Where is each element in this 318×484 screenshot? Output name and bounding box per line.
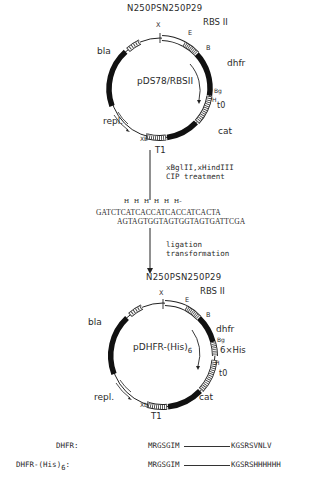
step1-enzymes: xBglII,xHindIII: [166, 163, 234, 172]
linker-bottom-strand: AGTAGTGGTAGTGGTAGTGATTCGA: [117, 217, 245, 226]
bottom-gene-repl: repl.: [94, 392, 114, 402]
top-site-bg: Bg: [214, 87, 222, 94]
bottom-site-xb: Xb: [140, 401, 148, 408]
seq-gap-line-dhfr-his6: [184, 465, 230, 466]
seq-label-dhfr-his6: DHFR-(His)6:: [16, 460, 70, 472]
bottom-site-b: B: [206, 311, 210, 319]
top-promoter-label: N250PSN250P29: [127, 3, 203, 13]
bottom-site-h: H: [215, 359, 220, 366]
bottom-site-bg: Bg: [217, 336, 225, 343]
top-plasmid-name: pDS78/RBSII: [137, 76, 193, 86]
bottom-plasmid-name: pDHFR-(His)6: [133, 342, 192, 355]
bottom-his-tag-label: 6×His: [220, 345, 246, 355]
bottom-site-e: E: [185, 296, 189, 304]
bottom-rbs-label: RBS II: [200, 286, 225, 296]
cat-gene: [167, 123, 196, 138]
top-gene-repl: repl.: [103, 116, 123, 126]
bottom-plasmid-name-sub: 6: [188, 347, 192, 355]
linker-top-strand: GATCTCATCACCATCACCATCACTA: [96, 208, 221, 217]
bla-gene: [109, 52, 126, 106]
bottom-gene-bla: bla: [88, 317, 102, 327]
top-terminator-t1: T1: [155, 145, 166, 155]
top-gene-bla: bla: [97, 46, 111, 56]
linker-his-row: H H H H H H-: [124, 197, 182, 205]
seq-label-dhfr-his6-text: DHFR-(His): [16, 460, 61, 469]
top-site-h: H: [212, 96, 217, 103]
bottom-gene-dhfr: dhfr: [216, 324, 234, 334]
bottom-plasmid-name-text: pDHFR-(His): [133, 342, 188, 352]
top-gene-cat: cat: [218, 126, 232, 136]
step1-treatment: CIP treatment: [166, 172, 225, 181]
seq-label-dhfr: DHFR:: [56, 441, 79, 450]
bottom-gene-cat: cat: [199, 392, 213, 402]
bottom-site-x: X: [159, 289, 163, 297]
seq-nterm-dhfr-his6: MRGSGIM: [148, 460, 180, 469]
top-terminator-t0: t0: [217, 101, 225, 110]
step2-ligation: ligation: [166, 240, 202, 249]
cat-gene: [168, 391, 200, 407]
top-gene-dhfr: dhfr: [227, 58, 245, 68]
bottom-terminator-t0: t0: [219, 369, 227, 378]
bottom-promoter-label: N250PSN250P29: [146, 272, 222, 282]
top-site-b: B: [206, 44, 210, 52]
step2-transformation: transformation: [166, 249, 229, 258]
bottom-terminator-t1: T1: [151, 411, 162, 421]
top-plasmid-map: [109, 33, 210, 140]
bla-gene: [111, 318, 127, 374]
dhfr-gene: [199, 318, 213, 342]
seq-gap-line-dhfr: [184, 446, 230, 447]
seq-cterm-dhfr: KGSRSVNLV: [231, 441, 272, 450]
top-rbs-label: RBS II: [203, 17, 228, 27]
top-site-e: E: [188, 29, 192, 37]
top-site-xb: Xb: [140, 135, 148, 142]
top-site-x: X: [156, 21, 160, 29]
dhfr-gene: [197, 54, 211, 96]
seq-cterm-dhfr-his6: KGSRSHHHHHH: [231, 460, 281, 469]
seq-nterm-dhfr: MRGSGIM: [148, 441, 180, 450]
seq-label-dhfr-his6-colon: :: [65, 460, 70, 469]
